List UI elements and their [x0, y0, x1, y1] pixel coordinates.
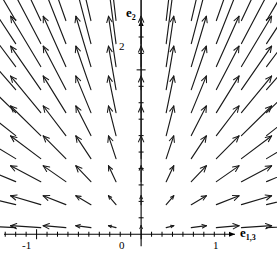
- x-axis-label-base: e: [240, 225, 246, 240]
- y-axis-label-subscript: 2: [132, 13, 136, 22]
- quiver-canvas: [0, 0, 277, 263]
- vector-field-plot: e2 e1,3 -1 0 1 2: [0, 0, 277, 263]
- x-axis-label-subscript: 1,3: [246, 233, 256, 242]
- x-tick-label-one: 1: [213, 240, 219, 251]
- y-axis-label: e2: [126, 6, 136, 19]
- x-tick-label-minus-one: -1: [22, 240, 31, 251]
- y-axis-label-base: e: [126, 5, 132, 20]
- x-axis-label: e1,3: [240, 226, 256, 239]
- x-tick-label-zero: 0: [119, 240, 125, 251]
- arrows-group: [0, 0, 277, 229]
- y-tick-label-two: 2: [119, 41, 125, 52]
